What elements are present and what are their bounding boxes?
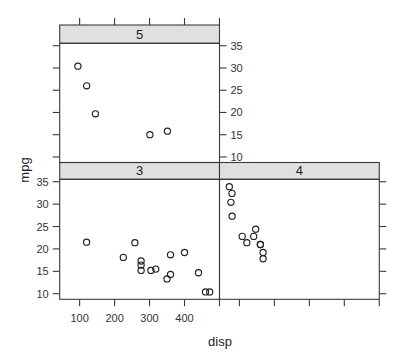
data-point — [84, 239, 90, 245]
data-point — [132, 240, 138, 246]
y-tick-label: 15 — [36, 265, 48, 277]
data-point — [164, 276, 170, 282]
y-tick-label: 20 — [231, 106, 243, 118]
strip-label: 5 — [136, 27, 143, 42]
panel-frame — [60, 179, 220, 299]
strip-label: 4 — [296, 163, 303, 178]
data-point — [228, 199, 234, 205]
x-tick-label: 300 — [140, 312, 158, 324]
data-point — [75, 63, 81, 69]
data-point — [167, 252, 173, 258]
data-point — [138, 258, 144, 264]
y-tick-label: 25 — [231, 84, 243, 96]
panel-5: 5 — [60, 25, 220, 163]
y-tick-label: 35 — [231, 40, 243, 52]
x-tick-label: 400 — [175, 312, 193, 324]
y-tick-label: 10 — [231, 151, 243, 163]
data-point — [257, 241, 263, 247]
data-point — [181, 249, 187, 255]
data-point — [226, 184, 232, 190]
strip-label: 3 — [136, 163, 143, 178]
data-point — [164, 128, 170, 134]
y-tick-label: 25 — [36, 221, 48, 233]
data-point — [260, 249, 266, 255]
data-point — [195, 270, 201, 276]
trellis-scatter-chart: 345 101520253035100200300400101520253035… — [0, 0, 409, 364]
data-point — [202, 289, 208, 295]
x-axis-label: disp — [208, 334, 232, 349]
panel-3: 3 — [60, 163, 220, 300]
data-point — [251, 233, 257, 239]
y-tick-label: 30 — [231, 62, 243, 74]
y-axis-label: mpg — [17, 157, 32, 182]
y-tick-label: 20 — [36, 243, 48, 255]
data-point — [92, 111, 98, 117]
data-point — [239, 233, 245, 239]
panels-layer: 345 — [60, 25, 380, 299]
data-point — [244, 240, 250, 246]
data-point — [253, 226, 259, 232]
panel-4: 4 — [220, 163, 380, 300]
y-tick-label: 35 — [36, 176, 48, 188]
y-tick-label: 30 — [36, 198, 48, 210]
x-tick-label: 100 — [70, 312, 88, 324]
data-point — [229, 213, 235, 219]
data-point — [229, 190, 235, 196]
y-tick-label: 15 — [231, 129, 243, 141]
data-point — [120, 254, 126, 260]
data-point — [260, 256, 266, 262]
y-tick-label: 10 — [36, 288, 48, 300]
data-point — [84, 83, 90, 89]
x-tick-label: 200 — [105, 312, 123, 324]
data-point — [147, 132, 153, 138]
panel-frame — [60, 43, 220, 162]
